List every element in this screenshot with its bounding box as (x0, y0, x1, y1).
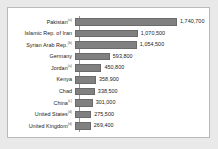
bar-area: 301,000 (75, 97, 209, 109)
category-label-text: Jordan (51, 65, 68, 71)
bar-area: 275,500 (75, 109, 209, 121)
bar-value-label: 593,800 (110, 54, 133, 59)
bar-row: Germany593,800 (8, 51, 209, 63)
bar (75, 99, 93, 107)
category-label: United Kingdom(d) (8, 123, 75, 129)
bar (75, 53, 110, 61)
category-label-text: Pakistan (47, 18, 68, 24)
bar (75, 64, 101, 72)
bar-area: 450,800 (75, 62, 209, 74)
bar (75, 76, 96, 84)
bar (75, 122, 91, 130)
bar-row: Pakistan(a)1,740,700 (8, 16, 209, 28)
bar-area: 1,054,500 (75, 39, 209, 51)
category-label-text: Islamic Rep. of Iran (25, 30, 72, 36)
category-label: Germany (8, 54, 75, 59)
bar-row: Jordan(a)450,800 (8, 62, 209, 74)
category-label: United States(d) (8, 111, 75, 117)
category-label-text: Syrian Arab Rep. (26, 42, 68, 48)
bar-row: Islamic Rep. of Iran1,070,500 (8, 28, 209, 40)
footnote-marker: (d) (68, 122, 72, 126)
bar-value-label: 301,000 (93, 100, 116, 105)
category-label-text: Germany (49, 53, 72, 59)
bar-row: Chad338,500 (8, 86, 209, 98)
bar-row: Kenya358,900 (8, 74, 209, 86)
category-label: China(c) (8, 100, 75, 106)
footnote-marker: (b) (68, 41, 72, 45)
bar (75, 88, 95, 96)
bar-value-label: 450,800 (101, 65, 124, 70)
bar-area: 1,740,700 (75, 16, 209, 28)
footnote-marker: (d) (68, 110, 72, 114)
bar (75, 30, 138, 38)
bar-area: 593,800 (75, 51, 209, 63)
bar-row: United Kingdom(d)269,400 (8, 120, 209, 132)
bar (75, 18, 177, 26)
bar-value-label: 358,900 (96, 77, 119, 82)
bar-row: China(c)301,000 (8, 97, 209, 109)
bar-row: Syrian Arab Rep.(b)1,054,500 (8, 39, 209, 51)
category-label: Pakistan(a) (8, 19, 75, 25)
category-label-text: Kenya (56, 76, 72, 82)
category-label-text: China (54, 100, 68, 106)
bar (75, 41, 137, 49)
bar-value-label: 1,070,500 (138, 31, 165, 36)
footnote-marker: (a) (68, 18, 72, 22)
bar-area: 338,500 (75, 86, 209, 98)
category-label: Kenya (8, 77, 75, 82)
bar-row: United States(d)275,500 (8, 109, 209, 121)
bar-area: 269,400 (75, 120, 209, 132)
bar-value-label: 338,500 (95, 89, 118, 94)
bar-rows-container: Pakistan(a)1,740,700Islamic Rep. of Iran… (8, 16, 209, 132)
category-label: Syrian Arab Rep.(b) (8, 42, 75, 48)
category-label: Islamic Rep. of Iran (8, 31, 75, 36)
bar-value-label: 269,400 (91, 123, 114, 128)
bar-area: 358,900 (75, 74, 209, 86)
category-label-text: Chad (59, 88, 72, 94)
bar-value-label: 275,500 (91, 112, 114, 117)
category-label: Jordan(a) (8, 65, 75, 71)
bar-chart-panel: Pakistan(a)1,740,700Islamic Rep. of Iran… (7, 7, 210, 138)
bar-value-label: 1,740,700 (177, 19, 204, 24)
footnote-marker: (a) (68, 64, 72, 68)
bar-value-label: 1,054,500 (137, 42, 164, 47)
footnote-marker: (c) (68, 99, 72, 103)
category-label-text: United Kingdom (29, 123, 68, 129)
bar-area: 1,070,500 (75, 28, 209, 40)
bar (75, 111, 91, 119)
category-label-text: United States (35, 111, 68, 117)
category-label: Chad (8, 89, 75, 94)
